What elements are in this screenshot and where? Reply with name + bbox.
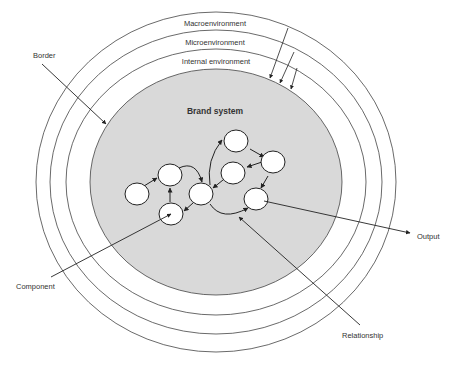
component-label: Component	[16, 282, 56, 291]
border-label: Border	[33, 51, 56, 60]
brand-system-title: Brand system	[187, 106, 244, 116]
component-node-8	[244, 188, 268, 210]
component-node-5	[224, 130, 248, 152]
internal-environment-label: Internal environment	[182, 57, 251, 66]
internal-influence-arrow	[291, 68, 297, 89]
component-node-7	[261, 151, 285, 173]
component-node-6	[221, 162, 245, 184]
brand-system-diagram: Macroenvironment Microenvironment Intern…	[0, 0, 452, 370]
output-label: Output	[417, 232, 440, 241]
brand-system-core	[90, 69, 342, 295]
component-node-2	[158, 164, 182, 186]
component-node-1	[125, 183, 149, 205]
macroenvironment-label: Macroenvironment	[184, 19, 247, 28]
relationship-label: Relationship	[342, 331, 383, 340]
component-node-4	[189, 183, 213, 205]
microenvironment-label: Microenvironment	[185, 38, 246, 47]
border-callout-arrow	[42, 64, 106, 124]
